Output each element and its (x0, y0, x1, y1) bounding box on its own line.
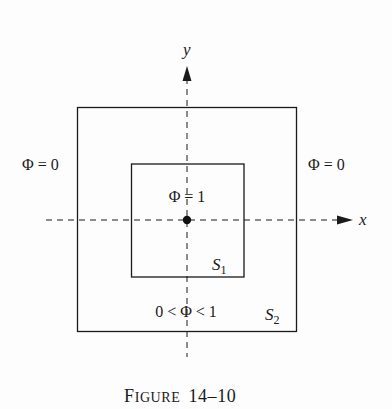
outer-right-phi-label: Φ = 0 (308, 156, 345, 173)
outer-left-phi-label: Φ = 0 (22, 156, 59, 173)
figure-canvas: y x Φ = 0 Φ = 0 Φ = 1 0 < Φ < 1 S1 S2 FI… (0, 0, 392, 409)
figure-caption: FIGURE14–10 (124, 386, 236, 406)
y-axis-arrow-icon (183, 66, 192, 81)
between-phi-label: 0 < Φ < 1 (155, 303, 217, 320)
caption-smallcaps: IGURE (135, 390, 181, 405)
y-axis-label: y (181, 40, 191, 59)
inner-surface-label: S1 (212, 255, 227, 277)
inner-surface-subscript: 1 (221, 263, 227, 277)
caption-number: 14–10 (188, 386, 236, 406)
inner-phi-label: Φ = 1 (169, 188, 206, 205)
caption-initial: F (124, 386, 135, 406)
origin-point (183, 216, 191, 224)
outer-surface-subscript: 2 (274, 313, 280, 327)
x-axis-label: x (358, 210, 367, 229)
nested-squares-diagram: y x Φ = 0 Φ = 0 Φ = 1 0 < Φ < 1 S1 S2 FI… (0, 0, 392, 409)
outer-surface-label: S2 (265, 305, 280, 327)
x-axis-arrow-icon (337, 216, 353, 225)
